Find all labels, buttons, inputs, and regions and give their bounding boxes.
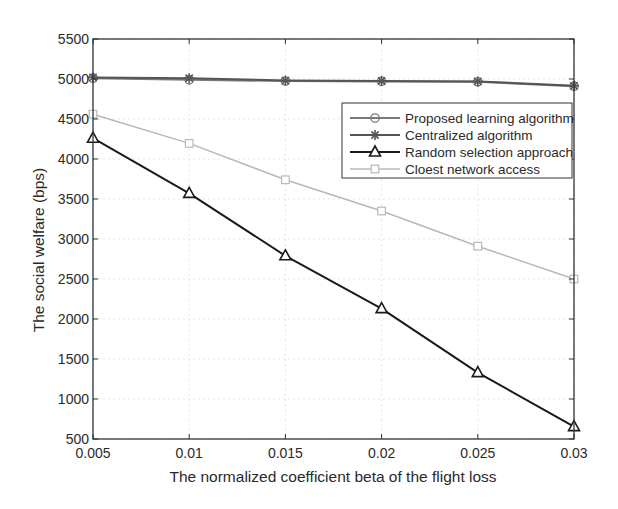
x-tick-label: 0.01 [176,445,203,461]
x-tick-label: 0.02 [368,445,395,461]
y-tick-label: 500 [66,431,90,447]
legend: Proposed learning algorithmCentralized a… [342,103,574,178]
line-chart: 0.0050.010.0150.020.0250.03 500100015002… [0,0,618,509]
star-marker [377,76,387,86]
series-centralized-algorithm [88,72,579,90]
legend-label: Proposed learning algorithm [405,111,574,126]
square-marker [474,242,482,250]
star-marker [473,76,483,86]
y-tick-label: 1500 [58,351,89,367]
square-marker [371,165,379,173]
square-marker [378,207,386,215]
y-tick-labels: 5001000150020002500300035004000450050005… [58,31,89,447]
y-tick-label: 2000 [58,311,89,327]
x-tick-label: 0.025 [460,445,495,461]
y-tick-label: 2500 [58,271,89,287]
y-tick-label: 5500 [58,31,89,47]
y-axis-label: The social welfare (bps) [30,168,47,333]
y-tick-label: 4500 [58,111,89,127]
star-marker [280,76,290,86]
series-line [93,138,574,426]
x-axis-label: The normalized coefficient beta of the f… [169,468,496,485]
square-marker [282,176,290,184]
grid-lines [93,39,574,439]
triangle-marker [280,250,291,260]
legend-label: Cloest network access [405,162,540,177]
y-tick-label: 1000 [58,391,89,407]
triangle-marker [472,367,483,377]
legend-label: Centralized algorithm [405,128,533,143]
star-marker [370,130,380,140]
x-tick-label: 0.015 [268,445,303,461]
y-tick-label: 3000 [58,231,89,247]
y-tick-label: 4000 [58,151,89,167]
y-tick-label: 5000 [58,71,89,87]
legend-label: Random selection approach [405,145,573,160]
star-marker [184,73,194,83]
x-tick-label: 0.03 [560,445,587,461]
y-tick-label: 3500 [58,191,89,207]
square-marker [185,140,193,148]
x-tick-labels: 0.0050.010.0150.020.0250.03 [75,445,587,461]
x-tick-label: 0.005 [75,445,110,461]
triangle-marker [184,187,195,197]
